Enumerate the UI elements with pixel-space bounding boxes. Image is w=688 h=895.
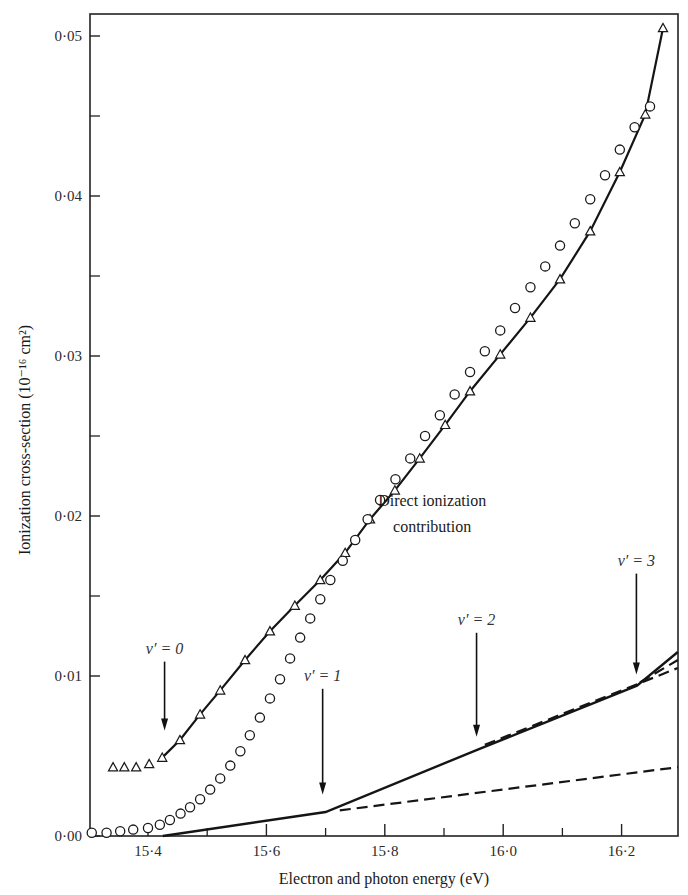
triangle-marker [658, 23, 667, 31]
circle-marker [176, 809, 185, 818]
series-direct-ionization-contribution [163, 652, 678, 836]
circle-marker [129, 825, 138, 834]
circle-marker [165, 815, 174, 824]
series-v-1-extrapolation [340, 767, 678, 810]
triangle-marker [120, 763, 129, 771]
dashed-line [640, 660, 678, 682]
x-tick-label: 16·0 [489, 843, 517, 859]
circle-marker [555, 241, 564, 250]
circle-marker [586, 195, 595, 204]
vibrational-level-label: v′ = 0 [146, 640, 183, 657]
circle-marker [245, 731, 254, 740]
x-tick-label: 15·6 [253, 843, 281, 859]
direct-ionization-label: Direct ionization [378, 492, 486, 509]
circle-marker [185, 803, 194, 812]
circle-marker [226, 761, 235, 770]
circle-marker [216, 774, 225, 783]
circle-marker [255, 713, 264, 722]
dashed-line [485, 668, 678, 745]
circle-marker [435, 411, 444, 420]
circle-marker [87, 828, 96, 837]
circle-marker [102, 828, 111, 837]
circle-marker [275, 675, 284, 684]
vibrational-level-label: v′ = 3 [618, 552, 655, 569]
y-tick-label: 0·04 [55, 188, 83, 204]
circle-marker [265, 694, 274, 703]
circle-marker [450, 390, 459, 399]
circle-marker [496, 326, 505, 335]
series-v-3-extrapolation [640, 660, 678, 682]
circle-marker [116, 827, 125, 836]
ionization-cross-section-chart: 15·415·615·816·016·2 0·000·010·020·030·0… [0, 0, 688, 895]
data-series [87, 23, 678, 837]
y-axis-title: Ionization cross-section (10⁻¹⁶ cm²) [16, 325, 34, 555]
series-circles-electron- [87, 102, 654, 838]
circle-marker [600, 171, 609, 180]
y-tick-label: 0·05 [55, 28, 83, 44]
circle-marker [363, 515, 372, 524]
circle-marker [155, 820, 164, 829]
circle-marker [296, 633, 305, 642]
circle-marker [465, 367, 474, 376]
plot-frame [90, 14, 678, 836]
series-v-2-extrapolation [485, 668, 678, 745]
triangle-marker [615, 167, 624, 175]
circle-marker [351, 535, 360, 544]
y-tick-label: 0·00 [55, 828, 83, 844]
circle-marker [236, 747, 245, 756]
triangle-marker [108, 763, 117, 771]
circle-marker [195, 795, 204, 804]
series-triangles-photon- [108, 23, 667, 770]
circle-marker [541, 262, 550, 271]
circle-marker [645, 102, 654, 111]
arrow-down-icon [473, 725, 480, 737]
circle-marker [420, 431, 429, 440]
vibrational-level-label: v′ = 2 [458, 611, 495, 628]
circle-marker [630, 123, 639, 132]
circle-marker [391, 475, 400, 484]
solid-line [163, 652, 678, 836]
x-tick-label: 15·8 [371, 843, 399, 859]
annotations: v′ = 0v′ = 1v′ = 2v′ = 3Direct ionizatio… [146, 492, 655, 794]
y-tick-label: 0·01 [55, 668, 83, 684]
circle-marker [326, 575, 335, 584]
x-axis-title: Electron and photon energy (eV) [279, 870, 489, 888]
circle-marker [285, 654, 294, 663]
x-tick-label: 15·4 [134, 843, 162, 859]
arrow-down-icon [633, 662, 640, 674]
arrow-down-icon [319, 782, 326, 794]
triangle-marker [586, 227, 595, 235]
circle-marker [480, 347, 489, 356]
circle-marker [143, 823, 152, 832]
circle-marker [615, 145, 624, 154]
direct-ionization-label: contribution [393, 518, 471, 535]
y-axis-ticks: 0·000·010·020·030·040·05 [55, 28, 101, 844]
circle-marker [316, 595, 325, 604]
triangle-marker [145, 759, 154, 767]
triangle-marker [132, 763, 141, 771]
circle-marker [570, 219, 579, 228]
arrow-down-icon [161, 718, 168, 730]
x-tick-label: 16·2 [608, 843, 636, 859]
circle-marker [306, 614, 315, 623]
circle-marker [206, 785, 215, 794]
circle-marker [526, 283, 535, 292]
circle-marker [510, 303, 519, 312]
dashed-line [340, 767, 678, 810]
y-tick-label: 0·02 [55, 508, 83, 524]
connecting-line [162, 28, 663, 758]
y-tick-label: 0·03 [55, 348, 83, 364]
vibrational-level-label: v′ = 1 [304, 667, 341, 684]
circle-marker [338, 556, 347, 565]
plot-border [90, 14, 678, 836]
circle-marker [406, 454, 415, 463]
